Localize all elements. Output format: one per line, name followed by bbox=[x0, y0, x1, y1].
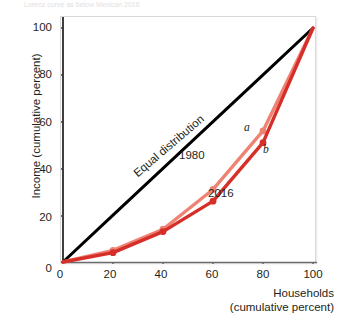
y-tick-40: 40 bbox=[18, 163, 52, 175]
x-tick-0: 0 bbox=[43, 268, 77, 280]
y-tick-20: 20 bbox=[18, 211, 52, 223]
series-line-equal-distribution bbox=[63, 28, 313, 262]
x-tick-40: 40 bbox=[144, 268, 178, 280]
x-axis-title-line1: Households bbox=[273, 287, 334, 299]
annotation-point-a: a bbox=[244, 121, 250, 133]
x-tick-20: 20 bbox=[93, 268, 127, 280]
plot-area: Equal distribution 1980 2016 a b bbox=[60, 16, 316, 263]
data-point-2016-40 bbox=[160, 228, 167, 235]
x-tick-100: 100 bbox=[296, 268, 330, 280]
x-tick-80: 80 bbox=[246, 268, 280, 280]
x-axis-title: Households (cumulative percent) bbox=[196, 286, 334, 314]
data-point-2016-20 bbox=[110, 249, 117, 256]
x-axis-tick-labels: 0 20 40 60 80 100 bbox=[0, 268, 337, 288]
y-tick-100: 100 bbox=[18, 21, 52, 33]
annotation-series-1980: 1980 bbox=[179, 149, 205, 161]
x-axis-title-line2: (cumulative percent) bbox=[230, 301, 334, 313]
chart-canvas bbox=[61, 17, 317, 264]
x-tick-60: 60 bbox=[195, 268, 229, 280]
y-tick-60: 60 bbox=[18, 116, 52, 128]
annotation-series-2016: 2016 bbox=[208, 187, 234, 199]
figure-caption-cropped: Lorenz curve as below Mexican 2016 bbox=[24, 0, 214, 9]
annotation-point-b: b bbox=[263, 143, 269, 155]
lorenz-curve-figure: Lorenz curve as below Mexican 2016 Incom… bbox=[0, 0, 337, 326]
y-tick-80: 80 bbox=[18, 68, 52, 80]
